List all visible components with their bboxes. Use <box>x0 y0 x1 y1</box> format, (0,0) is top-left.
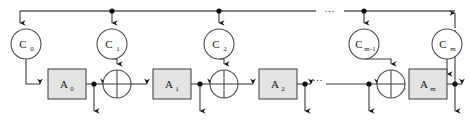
key-circle-cm[interactable] <box>432 29 462 59</box>
cascade-block-diagram: C 0 C 1 C 2 C m-1 C m A 0 <box>0 0 470 121</box>
box-label-a2-base: A <box>271 78 279 90</box>
key-node-cm[interactable]: C m <box>432 29 462 59</box>
key-label-c2-base: C <box>212 38 219 50</box>
key-node-cm1[interactable]: C m-1 <box>349 29 379 59</box>
tap-dot-a0 <box>91 81 96 86</box>
key-label-c0-sub: 0 <box>30 45 34 53</box>
bus-dot-cm1 <box>361 8 366 13</box>
transform-box-a1[interactable]: A 1 <box>153 69 191 99</box>
wire-cm1-to-xor3 <box>364 59 391 64</box>
xor-gate-1[interactable] <box>103 70 131 98</box>
key-label-cm1-sub: m-1 <box>364 45 376 53</box>
box-label-a2-sub: 2 <box>281 85 285 93</box>
transform-box-a0[interactable]: A 0 <box>48 69 86 99</box>
key-label-c1-base: C <box>105 38 112 50</box>
box-label-a0-sub: 0 <box>70 85 74 93</box>
key-label-cm1-base: C <box>355 38 362 50</box>
transform-box-am[interactable]: A m <box>409 69 447 99</box>
xor-gate-2[interactable] <box>210 70 238 98</box>
diagram-canvas: C 0 C 1 C 2 C m-1 C m A 0 <box>0 0 470 121</box>
wire-c1-to-xor1 <box>112 59 117 64</box>
key-node-c1[interactable]: C 1 <box>97 29 127 59</box>
tap-dot-a2 <box>302 81 307 86</box>
box-rect-am[interactable] <box>409 69 447 99</box>
tap-dot-a1 <box>197 81 202 86</box>
bus-drop-lines <box>20 11 455 28</box>
key-label-cm-sub: m <box>450 45 456 53</box>
box-label-am-base: A <box>420 78 428 90</box>
wire-c2-to-xor2 <box>219 59 224 64</box>
box-label-a0-base: A <box>60 78 68 90</box>
key-label-cm-base: C <box>439 38 446 50</box>
wire-c0-to-a0 <box>26 59 40 84</box>
box-label-a1-sub: 1 <box>175 85 179 93</box>
bus-dot-c1 <box>109 8 114 13</box>
box-label-am-sub: m <box>430 85 436 93</box>
tap-dot-xm <box>366 81 371 86</box>
tap-dot-am <box>452 81 457 86</box>
transform-box-a2[interactable]: A 2 <box>259 69 297 99</box>
key-node-c2[interactable]: C 2 <box>204 29 234 59</box>
data-path-ellipsis: ... <box>313 72 324 83</box>
key-label-c0-base: C <box>19 38 26 50</box>
c0-output-wire <box>26 59 40 84</box>
bus-ellipsis: ... <box>325 3 336 14</box>
key-label-c1-sub: 1 <box>116 45 120 53</box>
box-label-a1-base: A <box>165 78 173 90</box>
key-label-c2-sub: 2 <box>223 45 227 53</box>
xor-gate-3[interactable] <box>377 70 405 98</box>
bus-dot-c2 <box>216 8 221 13</box>
key-node-c0[interactable]: C 0 <box>11 29 41 59</box>
